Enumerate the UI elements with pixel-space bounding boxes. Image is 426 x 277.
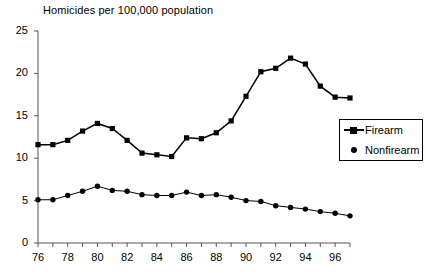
data-point-firearm bbox=[95, 121, 100, 126]
data-point-nonfirearm bbox=[184, 189, 189, 194]
data-point-nonfirearm bbox=[124, 189, 129, 194]
data-point-nonfirearm bbox=[318, 209, 323, 214]
data-point-nonfirearm bbox=[303, 206, 308, 211]
x-tick-label: 82 bbox=[115, 251, 139, 263]
data-point-firearm bbox=[214, 130, 219, 135]
data-point-firearm bbox=[333, 95, 338, 100]
data-point-nonfirearm bbox=[199, 193, 204, 198]
legend-dot-icon bbox=[344, 144, 364, 156]
x-tick-label: 92 bbox=[264, 251, 288, 263]
legend-line-square-icon bbox=[344, 124, 364, 136]
data-point-firearm bbox=[229, 118, 234, 123]
data-point-firearm bbox=[80, 128, 85, 133]
x-tick-label: 88 bbox=[204, 251, 228, 263]
data-point-nonfirearm bbox=[154, 193, 159, 198]
data-point-nonfirearm bbox=[35, 197, 40, 202]
data-point-nonfirearm bbox=[273, 203, 278, 208]
x-tick-label: 76 bbox=[26, 251, 50, 263]
x-tick-label: 84 bbox=[145, 251, 169, 263]
x-tick-label: 90 bbox=[234, 251, 258, 263]
data-point-firearm bbox=[110, 126, 115, 131]
x-tick-label: 78 bbox=[56, 251, 80, 263]
data-point-firearm bbox=[258, 69, 263, 74]
x-tick-label: 80 bbox=[85, 251, 109, 263]
y-tick-label: 20 bbox=[6, 66, 28, 78]
x-tick-label: 94 bbox=[293, 251, 317, 263]
data-point-nonfirearm bbox=[50, 197, 55, 202]
data-point-nonfirearm bbox=[110, 188, 115, 193]
data-point-firearm bbox=[303, 61, 308, 66]
legend-item-nonfirearm: Nonfirearm bbox=[340, 140, 422, 160]
data-point-firearm bbox=[139, 151, 144, 156]
series-line-firearm bbox=[38, 58, 350, 156]
legend-item-firearm: Firearm bbox=[340, 120, 422, 140]
y-tick-label: 15 bbox=[6, 109, 28, 121]
data-point-nonfirearm bbox=[243, 198, 248, 203]
x-tick-label: 86 bbox=[175, 251, 199, 263]
data-point-firearm bbox=[347, 95, 352, 100]
data-point-firearm bbox=[125, 138, 130, 143]
data-point-firearm bbox=[199, 136, 204, 141]
data-point-firearm bbox=[35, 142, 40, 147]
data-point-nonfirearm bbox=[228, 195, 233, 200]
data-point-firearm bbox=[65, 138, 70, 143]
data-point-nonfirearm bbox=[347, 213, 352, 218]
y-tick-label: 25 bbox=[6, 24, 28, 36]
data-point-firearm bbox=[288, 56, 293, 61]
legend-label-firearm: Firearm bbox=[364, 125, 403, 136]
chart-container: Homicides per 100,000 population Firearm… bbox=[0, 0, 426, 277]
data-point-nonfirearm bbox=[80, 189, 85, 194]
data-point-nonfirearm bbox=[65, 193, 70, 198]
data-point-firearm bbox=[243, 94, 248, 99]
data-point-firearm bbox=[273, 66, 278, 71]
data-point-firearm bbox=[169, 154, 174, 159]
data-point-nonfirearm bbox=[169, 193, 174, 198]
data-point-nonfirearm bbox=[258, 199, 263, 204]
y-tick-label: 0 bbox=[6, 236, 28, 248]
data-point-nonfirearm bbox=[288, 205, 293, 210]
y-tick-label: 10 bbox=[6, 151, 28, 163]
data-point-nonfirearm bbox=[95, 183, 100, 188]
data-point-firearm bbox=[318, 84, 323, 89]
data-point-firearm bbox=[154, 152, 159, 157]
x-tick-label: 96 bbox=[323, 251, 347, 263]
data-point-firearm bbox=[50, 142, 55, 147]
data-point-firearm bbox=[184, 135, 189, 140]
data-point-nonfirearm bbox=[332, 211, 337, 216]
legend-label-nonfirearm: Nonfirearm bbox=[364, 145, 419, 156]
chart-legend: Firearm Nonfirearm bbox=[339, 119, 423, 161]
data-point-nonfirearm bbox=[139, 192, 144, 197]
data-point-nonfirearm bbox=[214, 192, 219, 197]
y-tick-label: 5 bbox=[6, 194, 28, 206]
